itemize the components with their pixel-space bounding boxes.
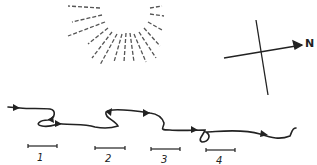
scale-bar-label-3: 3 — [161, 154, 167, 165]
sun-rays-icon — [68, 6, 164, 65]
compass-icon — [224, 20, 302, 95]
diagram-canvas — [0, 0, 317, 165]
compass-north-label: N — [305, 37, 314, 50]
scale-bars — [28, 144, 235, 152]
scale-bar-label-4: 4 — [216, 155, 222, 165]
scale-bar-label-1: 1 — [37, 152, 43, 163]
scale-bar-label-2: 2 — [105, 153, 111, 164]
movement-path — [8, 107, 296, 142]
